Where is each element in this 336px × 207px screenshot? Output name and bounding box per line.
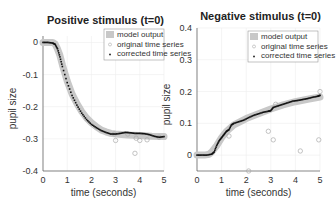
pos-y-tick-label: 0 [33,37,38,47]
pos-corrected-point [85,117,87,119]
pos-y-tick-label: -0.4 [22,166,38,176]
neg-original-point [317,138,321,142]
neg-x-tick-label: 4 [293,175,298,185]
pos-corrected-point [62,66,64,68]
neg-y-axis-label: pupil size [161,83,172,125]
neg-y-tick-label: 0.2 [179,87,192,97]
neg-corrected-point [319,95,321,97]
pos-corrected-point [81,112,83,114]
pos-corrected-point [82,114,84,116]
neg-y-tick-label: 0 [187,150,192,160]
pos-corrected-point [71,95,73,97]
neg-corrected-point [214,150,216,152]
neg-corrected-point [213,151,215,153]
pos-corrected-point [59,54,61,56]
pos-corrected-point [60,59,62,61]
pos-x-tick-label: 2 [89,175,94,185]
pos-corrected-point [79,108,81,110]
neg-x-tick-label: 1 [219,175,224,185]
pos-x-tick-label: 5 [161,175,166,185]
pos-corrected-point [76,104,78,106]
pos-corrected-point [63,70,65,72]
pos-corrected-point [77,106,79,108]
pos-x-axis-label: time (seconds) [71,187,137,198]
pos-x-tick-label: 4 [137,175,142,185]
neg-original-point [271,138,275,142]
pos-chart-title: Positive stimulus (t=0) [47,14,164,26]
neg-corrected-point [215,146,217,148]
neg-chart-title: Negative stimulus (t=0) [200,10,321,22]
pos-corrected-point [57,48,59,50]
pos-y-tick-label: -0.3 [22,134,38,144]
pos-legend-label: model output [117,30,164,39]
neg-legend-label: original time series [261,42,328,51]
pos-legend-model-swatch [106,31,114,38]
pos-corrected-point [163,136,165,138]
neg-x-axis-label: time (seconds) [226,187,292,198]
pos-corrected-point [80,110,82,112]
pos-corrected-point [58,52,60,54]
neg-legend-corrected-marker [253,56,255,58]
neg-y-tick-label: 0.3 [179,55,192,65]
pos-corrected-point [60,61,62,63]
neg-y-tick-label: 0.4 [179,23,192,33]
pos-x-tick-label: 1 [65,175,70,185]
pos-y-tick-label: -0.1 [22,70,38,80]
pos-original-point [133,151,137,155]
chart-figure: 0123450-0.1-0.2-0.3-0.4Positive stimulus… [0,0,336,207]
neg-original-point [266,129,270,133]
pos-corrected-point [69,88,71,90]
neg-original-point [298,149,302,153]
neg-x-tick-label: 0 [194,175,199,185]
pos-corrected-point [66,82,68,84]
pos-corrected-point [64,74,66,76]
pos-corrected-point [70,91,72,93]
pos-x-tick-label: 3 [113,175,118,185]
pos-legend-corrected-marker [109,54,111,56]
neg-x-tick-label: 2 [244,175,249,185]
pos-corrected-point [65,78,67,80]
pos-corrected-point [72,97,74,99]
neg-legend-label: model output [261,32,308,41]
pos-corrected-point [74,99,76,101]
pos-corrected-point [57,50,59,52]
neg-corrected-point [215,148,217,150]
pos-x-tick-label: 0 [40,175,45,185]
neg-x-tick-label: 5 [317,175,322,185]
neg-legend-model-swatch [250,33,258,40]
pos-corrected-point [75,102,77,104]
neg-original-point [227,134,231,138]
neg-x-tick-label: 3 [268,175,273,185]
neg-legend-label: corrected time series [261,51,335,60]
pos-corrected-point [61,63,63,65]
pos-y-axis-label: pupil size [7,87,18,129]
pos-corrected-point [68,85,70,87]
pos-legend-label: original time series [117,40,184,49]
pos-corrected-point [83,116,85,118]
neg-y-tick-label: 0.1 [179,118,192,128]
pos-y-tick-label: -0.2 [22,102,38,112]
pos-corrected-point [59,56,61,58]
